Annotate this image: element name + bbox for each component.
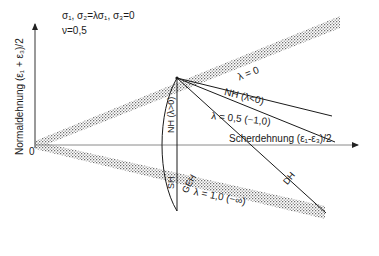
origin-label: 0 [29,146,35,158]
apex-node [175,76,178,79]
x-axis-label: Scherdehnung (ε₁-ε₃)/2 [229,133,332,145]
y-axis-label: Normaldehnung (ε₁ + ε₃)/2 [14,38,26,155]
nh-positive-label: NH (λ>0) [166,97,176,133]
loading-condition-line-1: σ₁, σ₂=λσ₁, σ₃=0 [62,10,135,22]
diagram-canvas [0,0,379,256]
strain-hypothesis-diagram: σ₁, σ₂=λσ₁, σ₃=0 ν=0,5 Normaldehnung (ε₁… [0,0,379,256]
poisson-ratio-condition: ν=0,5 [62,25,87,37]
sh-label: SH [166,176,176,189]
